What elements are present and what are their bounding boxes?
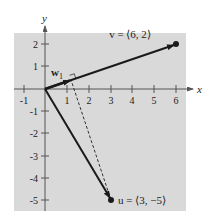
y-tick-label: 1 (33, 61, 38, 72)
x-tick-label: 6 (174, 95, 179, 106)
x-tick-label: 1 (65, 95, 70, 106)
point-u (108, 197, 114, 203)
x-tick-label: 3 (109, 95, 114, 106)
plot-background (14, 33, 186, 211)
x-axis-label: x (196, 83, 202, 95)
y-tick-label: -2 (30, 128, 38, 139)
y-tick-label: -1 (30, 106, 38, 117)
x-tick-label: -1 (20, 95, 28, 106)
x-tick-label: 2 (87, 95, 92, 106)
projection-figure: -1 1 2 3 4 5 6 x 2 1 -1 -2 -3 -4 -5 y (0, 0, 208, 224)
x-tick-label: 5 (152, 95, 157, 106)
x-tick-label: 4 (130, 95, 135, 106)
y-axis-label: y (41, 12, 47, 24)
y-tick-label: 2 (33, 39, 38, 50)
vector-u-label: u = ⟨3, −5⟩ (118, 194, 166, 206)
point-v (173, 41, 179, 47)
y-tick-label: -3 (30, 151, 38, 162)
vector-v-label: v = ⟨6, 2⟩ (109, 28, 151, 40)
y-tick-label: -4 (30, 173, 38, 184)
y-tick-label: -5 (30, 195, 38, 206)
